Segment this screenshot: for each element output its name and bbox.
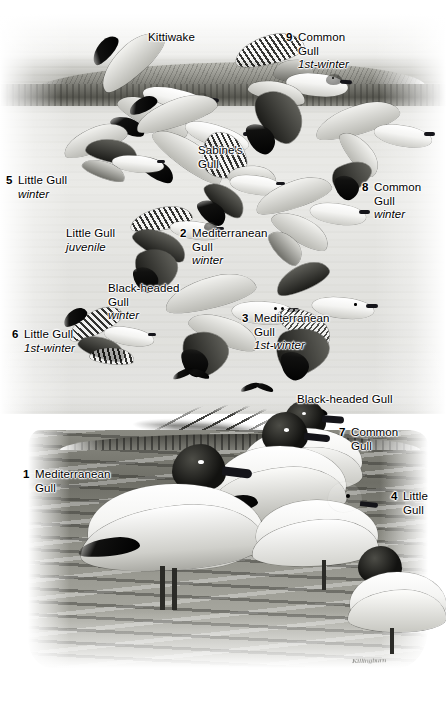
label-little-gull-winter-qualifier: winter: [18, 188, 67, 202]
label-little-gull-juvenile: Little Gull juvenile: [66, 227, 115, 254]
bird-kittiwake: [82, 38, 232, 158]
label-mediterranean-gull-1st-winter: 3Mediterranean Gull 1st-winter: [242, 312, 329, 353]
label-little-gull-1st-winter-name: Little Gull: [24, 328, 73, 340]
bird-distant-flyer-2: [240, 380, 276, 398]
label-little-gull-name: Little: [403, 490, 428, 502]
label-sabines-gull-name: Sabine's: [198, 144, 243, 156]
label-little-gull-winter-name: Little Gull: [18, 174, 67, 186]
label-number-7: 7: [339, 426, 351, 440]
bird-distant-flyer-1: [172, 366, 212, 386]
label-number-8: 8: [362, 181, 374, 195]
label-number-6: 6: [12, 328, 24, 342]
label-number-3: 3: [242, 312, 254, 326]
label-black-headed-gull-winter-name: Black-headed: [108, 282, 180, 294]
label-common-gull: 7Common Gull: [339, 426, 398, 453]
label-common-gull-1st-winter-name2: Gull: [298, 45, 349, 59]
label-common-gull-winter-qualifier: winter: [374, 208, 421, 222]
label-mediterranean-gull-winter-name2: Gull: [192, 241, 267, 255]
label-number-5: 5: [6, 174, 18, 188]
distant-shoreline: [0, 84, 446, 106]
label-common-gull-name2: Gull: [351, 440, 398, 454]
label-mediterranean-gull-name: Mediterranean: [35, 468, 110, 480]
label-number-2: 2: [180, 227, 192, 241]
label-mediterranean-gull-1st-winter-name: Mediterranean: [254, 312, 329, 324]
label-common-gull-name: Common: [351, 426, 398, 438]
rocky-shore: [28, 430, 428, 668]
label-little-gull-juvenile-qualifier: juvenile: [66, 241, 115, 255]
label-black-headed-gull-winter-qualifier: winter: [108, 309, 180, 323]
label-mediterranean-gull-winter-qualifier: winter: [192, 254, 267, 268]
label-kittiwake: Kittiwake: [148, 31, 195, 45]
driftwood-branch: [149, 394, 282, 449]
label-common-gull-1st-winter: 9Common Gull 1st-winter: [286, 31, 349, 72]
label-black-headed-gull: Black-headed Gull: [297, 393, 393, 407]
label-mediterranean-gull: 1Mediterranean Gull: [23, 468, 110, 495]
label-number-4: 4: [391, 490, 403, 504]
label-little-gull-1st-winter-qualifier: 1st-winter: [24, 342, 75, 356]
label-little-gull-juvenile-name: Little Gull: [66, 227, 115, 239]
label-common-gull-winter: 8Common Gull winter: [362, 181, 421, 222]
label-kittiwake-name: Kittiwake: [148, 31, 195, 43]
label-common-gull-winter-name2: Gull: [374, 195, 421, 209]
label-little-gull-winter: 5Little Gull winter: [6, 174, 67, 201]
label-mediterranean-gull-1st-winter-qualifier: 1st-winter: [254, 339, 329, 353]
bird-kittiwake-lower: [112, 96, 272, 206]
label-little-gull: 4Little Gull: [391, 490, 428, 517]
bird-little-gull-standing: [256, 482, 406, 632]
artist-signature: Killingburn: [352, 655, 418, 666]
driftwood-reflection: [128, 414, 279, 442]
bird-mediterranean-gull-standing: [88, 444, 318, 624]
bird-little-gull-winter: [56, 126, 176, 206]
label-black-headed-gull-winter: Black-headed Gull winter: [108, 282, 180, 323]
distant-hills: [22, 62, 426, 98]
label-black-headed-gull-name: Black-headed Gull: [297, 393, 393, 405]
label-common-gull-1st-winter-qualifier: 1st-winter: [298, 58, 349, 72]
label-black-headed-gull-winter-name2: Gull: [108, 296, 180, 310]
label-mediterranean-gull-1st-winter-name2: Gull: [254, 326, 329, 340]
label-mediterranean-gull-winter: 2Mediterranean Gull winter: [180, 227, 267, 268]
label-mediterranean-gull-winter-name: Mediterranean: [192, 227, 267, 239]
label-number-1: 1: [23, 468, 35, 482]
illustration-plate: Kittiwake 9Common Gull 1st-winter Sabine…: [0, 0, 446, 704]
label-mediterranean-gull-name2: Gull: [35, 482, 110, 496]
label-sabines-gull: Sabine's Gull: [198, 144, 243, 171]
bird-hooded-gull-right-edge: [350, 546, 446, 656]
label-number-9: 9: [286, 31, 298, 45]
label-common-gull-1st-winter-name: Common: [298, 31, 345, 43]
label-little-gull-name2: Gull: [403, 504, 428, 518]
label-little-gull-1st-winter: 6Little Gull 1st-winter: [12, 328, 75, 355]
label-sabines-gull-name2: Gull: [198, 158, 243, 172]
label-common-gull-winter-name: Common: [374, 181, 421, 193]
